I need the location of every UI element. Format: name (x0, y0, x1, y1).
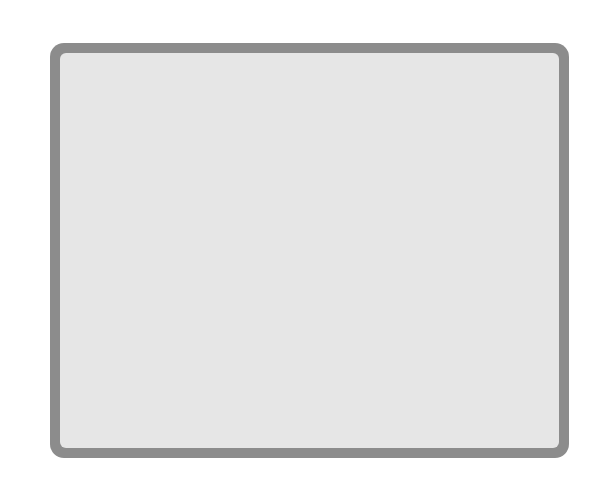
cytoplasm (60, 53, 559, 448)
cell-diagram (0, 0, 611, 500)
